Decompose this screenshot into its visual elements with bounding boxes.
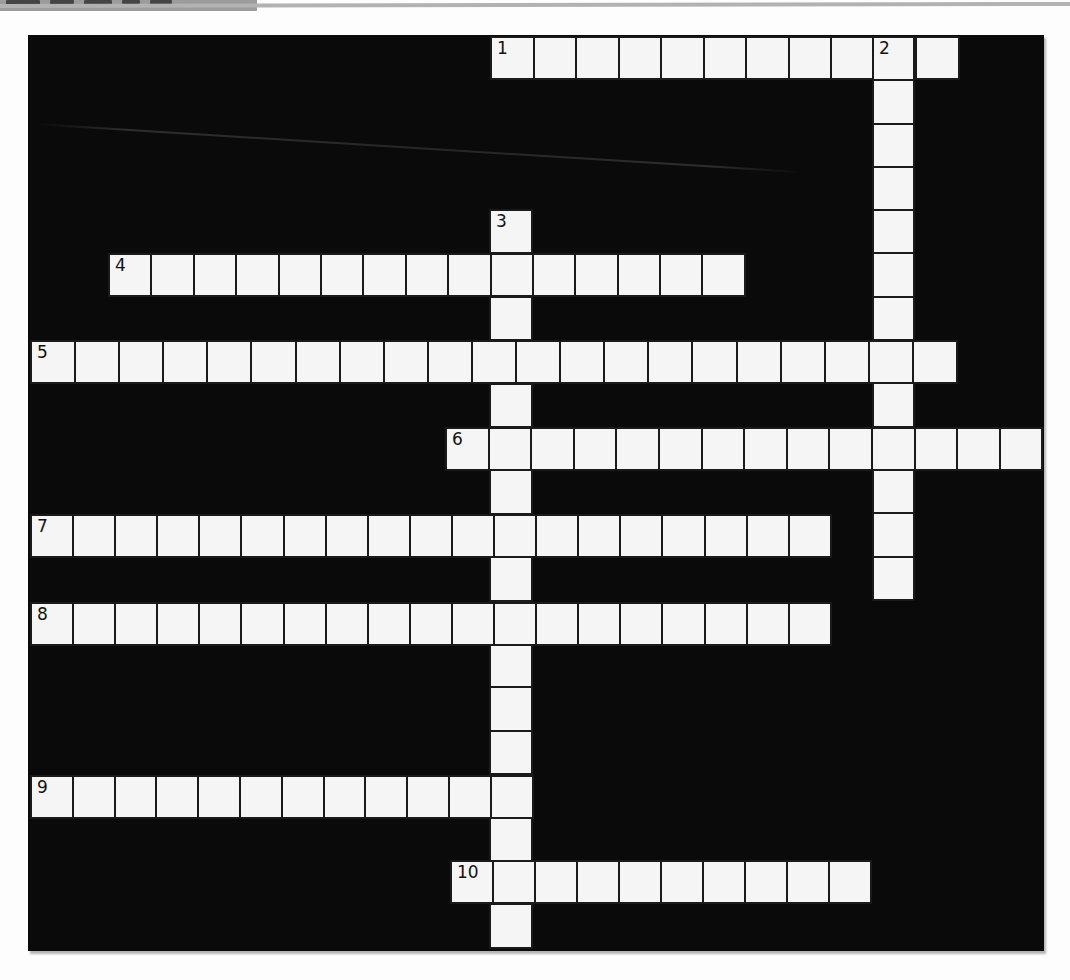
- crossword-cell[interactable]: [515, 340, 561, 384]
- crossword-cell[interactable]: [339, 340, 385, 384]
- crossword-cell[interactable]: [451, 602, 495, 646]
- crossword-cell[interactable]: [535, 602, 579, 646]
- crossword-cell[interactable]: [492, 860, 536, 904]
- crossword-cell[interactable]: [575, 36, 620, 80]
- crossword-cell[interactable]: [239, 775, 283, 819]
- crossword-cell[interactable]: [780, 340, 826, 384]
- crossword-cell[interactable]: [114, 514, 158, 558]
- crossword-cell[interactable]: [278, 253, 322, 297]
- crossword-cell[interactable]: [427, 340, 473, 384]
- crossword-cell[interactable]: [872, 296, 915, 341]
- crossword-cell[interactable]: [409, 514, 453, 558]
- crossword-cell[interactable]: [281, 775, 325, 819]
- crossword-cell[interactable]: [114, 602, 158, 646]
- crossword-cell[interactable]: [702, 860, 746, 904]
- crossword-cell[interactable]: [240, 514, 284, 558]
- crossword-cell[interactable]: 9: [30, 775, 74, 819]
- crossword-cell[interactable]: [489, 730, 533, 775]
- crossword-cell[interactable]: [577, 602, 621, 646]
- crossword-cell[interactable]: [704, 514, 748, 558]
- crossword-cell[interactable]: [250, 340, 296, 384]
- crossword-cell[interactable]: [406, 775, 450, 819]
- crossword-cell[interactable]: 5: [30, 340, 76, 384]
- crossword-cell[interactable]: [658, 427, 703, 471]
- crossword-cell[interactable]: [746, 514, 790, 558]
- crossword-cell[interactable]: [872, 209, 915, 254]
- crossword-cell[interactable]: [704, 602, 748, 646]
- crossword-cell[interactable]: [320, 253, 364, 297]
- crossword-cell[interactable]: [701, 427, 746, 471]
- crossword-cell[interactable]: [745, 36, 790, 80]
- crossword-cell[interactable]: [647, 340, 693, 384]
- crossword-cell[interactable]: [72, 514, 116, 558]
- crossword-cell[interactable]: 1: [490, 36, 535, 80]
- crossword-cell[interactable]: [618, 860, 662, 904]
- crossword-cell[interactable]: [999, 427, 1044, 471]
- crossword-cell[interactable]: [660, 860, 704, 904]
- crossword-cell[interactable]: [573, 427, 618, 471]
- crossword-cell[interactable]: [235, 253, 279, 297]
- crossword-cell[interactable]: [240, 602, 284, 646]
- crossword-cell[interactable]: 4: [108, 253, 152, 297]
- crossword-cell[interactable]: [872, 382, 915, 427]
- crossword-cell[interactable]: [660, 36, 705, 80]
- crossword-cell[interactable]: 7: [30, 514, 74, 558]
- crossword-cell[interactable]: [490, 775, 534, 819]
- crossword-cell[interactable]: [691, 340, 737, 384]
- crossword-cell[interactable]: [872, 252, 915, 297]
- crossword-cell[interactable]: [872, 79, 915, 124]
- crossword-cell[interactable]: 8: [30, 602, 74, 646]
- crossword-cell[interactable]: [206, 340, 252, 384]
- crossword-cell[interactable]: [828, 427, 873, 471]
- crossword-cell[interactable]: [788, 514, 832, 558]
- crossword-cell[interactable]: [535, 514, 579, 558]
- crossword-cell[interactable]: 10: [450, 860, 494, 904]
- crossword-cell[interactable]: [872, 123, 915, 168]
- crossword-cell[interactable]: [198, 602, 242, 646]
- crossword-cell[interactable]: [619, 602, 663, 646]
- crossword-cell[interactable]: [576, 860, 620, 904]
- crossword-cell[interactable]: [489, 383, 533, 428]
- crossword-cell[interactable]: [744, 860, 788, 904]
- crossword-cell[interactable]: [383, 340, 429, 384]
- crossword-cell[interactable]: [323, 775, 367, 819]
- crossword-cell[interactable]: [788, 36, 833, 80]
- crossword-cell[interactable]: [872, 512, 915, 557]
- crossword-cell[interactable]: [409, 602, 453, 646]
- crossword-cell[interactable]: [489, 903, 533, 948]
- crossword-cell[interactable]: [493, 602, 537, 646]
- crossword-cell[interactable]: [661, 514, 705, 558]
- crossword-cell[interactable]: [559, 340, 605, 384]
- crossword-cell[interactable]: [448, 775, 492, 819]
- crossword-cell[interactable]: [488, 427, 533, 471]
- crossword-cell[interactable]: [283, 602, 327, 646]
- crossword-cell[interactable]: [325, 514, 369, 558]
- crossword-cell[interactable]: [489, 296, 533, 341]
- crossword-cell[interactable]: [155, 775, 199, 819]
- crossword-cell[interactable]: [872, 166, 915, 211]
- crossword-cell[interactable]: [701, 253, 745, 297]
- crossword-cell[interactable]: [197, 775, 241, 819]
- crossword-cell[interactable]: [824, 340, 870, 384]
- crossword-cell[interactable]: [451, 514, 495, 558]
- crossword-cell[interactable]: [786, 860, 830, 904]
- crossword-cell[interactable]: [603, 340, 649, 384]
- crossword-cell[interactable]: [447, 253, 491, 297]
- crossword-cell[interactable]: [490, 253, 534, 297]
- crossword-cell[interactable]: [534, 860, 578, 904]
- crossword-cell[interactable]: [619, 514, 663, 558]
- crossword-cell[interactable]: [615, 427, 660, 471]
- crossword-cell[interactable]: [788, 602, 832, 646]
- crossword-cell[interactable]: [868, 340, 914, 384]
- crossword-cell[interactable]: [703, 36, 748, 80]
- crossword-cell[interactable]: [156, 602, 200, 646]
- crossword-cell[interactable]: 6: [445, 427, 490, 471]
- crossword-cell[interactable]: [617, 253, 661, 297]
- crossword-cell[interactable]: [74, 340, 120, 384]
- crossword-cell[interactable]: [156, 514, 200, 558]
- crossword-cell[interactable]: [871, 427, 916, 471]
- crossword-cell[interactable]: [872, 469, 915, 514]
- crossword-cell[interactable]: [295, 340, 341, 384]
- crossword-cell[interactable]: [150, 253, 194, 297]
- crossword-cell[interactable]: [914, 427, 959, 471]
